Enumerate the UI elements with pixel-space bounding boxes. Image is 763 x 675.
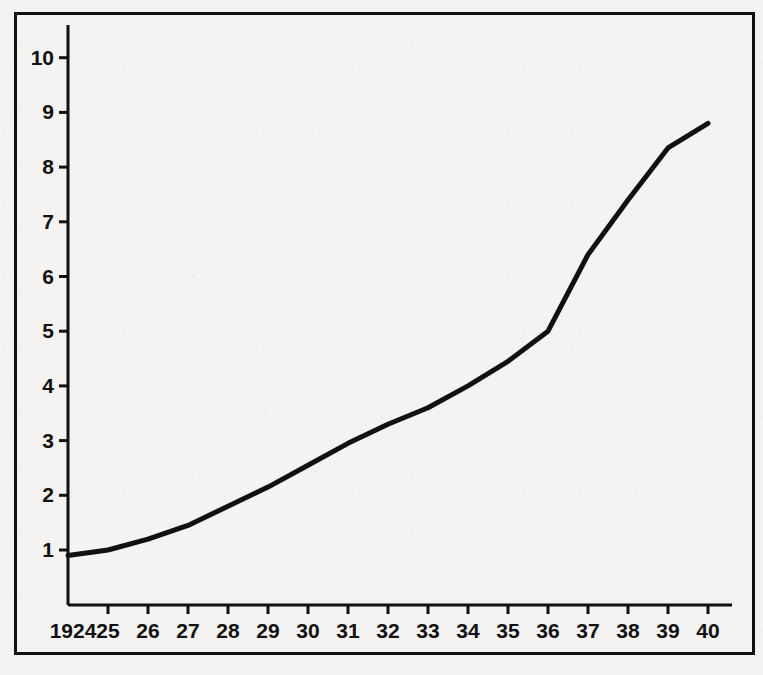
x-axis: 192425262728293031323334353637383940 — [50, 605, 732, 642]
y-tick-label-1: 1 — [42, 538, 54, 561]
x-tick-label-37: 37 — [576, 619, 599, 642]
data-line-series-1 — [68, 123, 708, 555]
y-tick-label-5: 5 — [42, 319, 54, 342]
x-axis-tick-labels: 192425262728293031323334353637383940 — [50, 619, 720, 642]
x-tick-label-25: 25 — [96, 619, 120, 642]
y-axis: 12345678910 — [31, 25, 68, 605]
x-tick-label-27: 27 — [176, 619, 199, 642]
y-tick-label-7: 7 — [42, 210, 54, 233]
line-chart: 12345678910 1924252627282930313233343536… — [0, 0, 763, 675]
x-tick-label-38: 38 — [616, 619, 640, 642]
x-tick-label-36: 36 — [536, 619, 559, 642]
x-tick-label-28: 28 — [216, 619, 240, 642]
x-tick-label-30: 30 — [296, 619, 319, 642]
x-tick-label-34: 34 — [456, 619, 480, 642]
y-tick-label-8: 8 — [42, 155, 54, 178]
x-tick-label-26: 26 — [136, 619, 159, 642]
x-tick-label-32: 32 — [376, 619, 399, 642]
y-tick-label-10: 10 — [31, 46, 54, 69]
x-tick-label-35: 35 — [496, 619, 520, 642]
x-tick-label-40: 40 — [696, 619, 719, 642]
y-tick-label-2: 2 — [42, 483, 54, 506]
x-tick-label-33: 33 — [416, 619, 439, 642]
y-tick-label-9: 9 — [42, 100, 54, 123]
chart-page: 12345678910 1924252627282930313233343536… — [0, 0, 763, 675]
y-tick-label-3: 3 — [42, 429, 54, 452]
x-tick-label-29: 29 — [256, 619, 279, 642]
x-tick-label-1924: 1924 — [50, 619, 97, 642]
x-tick-label-39: 39 — [656, 619, 679, 642]
y-axis-tick-labels: 12345678910 — [31, 46, 55, 561]
y-tick-label-6: 6 — [42, 265, 54, 288]
y-tick-label-4: 4 — [42, 374, 54, 397]
x-tick-label-31: 31 — [336, 619, 360, 642]
data-series-group — [68, 123, 708, 555]
